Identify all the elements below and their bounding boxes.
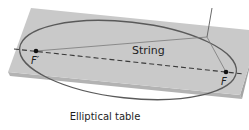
focus-right-dot: [224, 70, 229, 75]
figure-caption: Elliptical table: [0, 111, 210, 122]
focus-left-label: F′: [31, 56, 39, 66]
focus-left-dot: [34, 49, 39, 54]
focus-right-label: F: [221, 77, 227, 87]
table-top: [8, 8, 249, 95]
elliptical-table-diagram: String F′ F Elliptical table: [0, 0, 249, 130]
string-label: String: [132, 45, 165, 56]
